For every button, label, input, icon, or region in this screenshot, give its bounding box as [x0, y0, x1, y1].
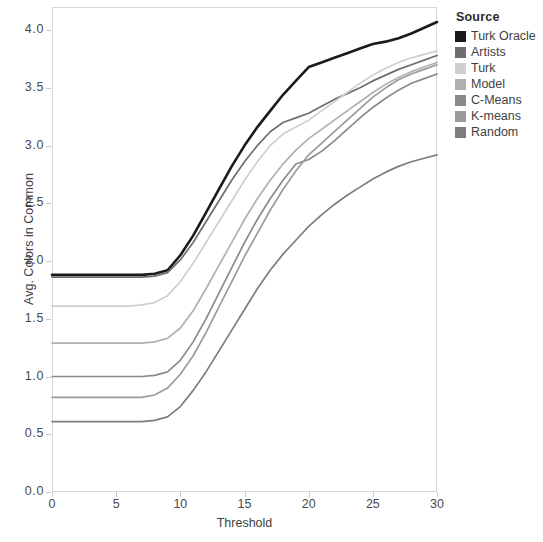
legend-swatch-icon: [455, 79, 466, 90]
legend-swatch-icon: [455, 111, 466, 122]
legend-title: Source: [456, 10, 543, 24]
series-line: [52, 62, 437, 343]
series-line: [52, 22, 437, 275]
legend-swatch-icon: [455, 31, 466, 42]
series-line: [52, 74, 437, 377]
legend-item[interactable]: C-Means: [455, 92, 543, 108]
line-chart: 0.00.51.01.52.02.53.03.54.0 051015202530…: [0, 0, 543, 542]
series-line: [52, 65, 437, 398]
legend-swatch-icon: [455, 95, 466, 106]
legend-swatch-icon: [455, 47, 466, 58]
legend-item-label: Model: [471, 77, 505, 91]
x-axis-title: Threshold: [52, 516, 437, 530]
series-line: [52, 155, 437, 422]
legend-item-label: C-Means: [471, 93, 522, 107]
legend-swatch-icon: [455, 63, 466, 74]
y-axis-title: Avg. Colors in Common: [22, 124, 36, 354]
legend-item[interactable]: Artists: [455, 44, 543, 60]
legend-item-label: Artists: [471, 45, 506, 59]
legend-item[interactable]: Turk: [455, 60, 543, 76]
legend-item-label: Turk: [471, 61, 496, 75]
legend: Source Turk OracleArtistsTurkModelC-Mean…: [455, 10, 543, 140]
legend-items: Turk OracleArtistsTurkModelC-MeansK-mean…: [455, 28, 543, 140]
legend-item-label: K-means: [471, 109, 521, 123]
legend-item[interactable]: Turk Oracle: [455, 28, 543, 44]
legend-item[interactable]: Random: [455, 124, 543, 140]
legend-swatch-icon: [455, 127, 466, 138]
legend-item-label: Random: [471, 125, 518, 139]
legend-item[interactable]: Model: [455, 76, 543, 92]
legend-item[interactable]: K-means: [455, 108, 543, 124]
legend-item-label: Turk Oracle: [471, 29, 536, 43]
